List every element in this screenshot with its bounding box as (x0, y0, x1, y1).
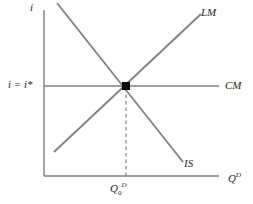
x-axis-label-base: Q (228, 172, 236, 184)
x-axis-label: QD (228, 172, 241, 184)
x-axis-label-superscript: D (236, 171, 241, 179)
equilibrium-point-marker (122, 82, 130, 90)
x-tick-superscript: D (121, 181, 126, 189)
y-axis-label: i (30, 2, 33, 13)
is-lm-cm-diagram: i LM CM IS QD i = i* Q0D (0, 0, 253, 204)
is-curve (57, 3, 183, 162)
x-axis-tick-label: Q0D (110, 182, 127, 197)
x-tick-base: Q (110, 182, 118, 194)
is-curve-label: IS (184, 158, 193, 169)
y-axis-tick-label: i = i* (8, 79, 33, 90)
plot-canvas (0, 0, 253, 204)
lm-curve-label: LM (201, 7, 216, 18)
cm-curve-label: CM (225, 80, 242, 91)
x-tick-subscript: 0 (118, 189, 122, 197)
